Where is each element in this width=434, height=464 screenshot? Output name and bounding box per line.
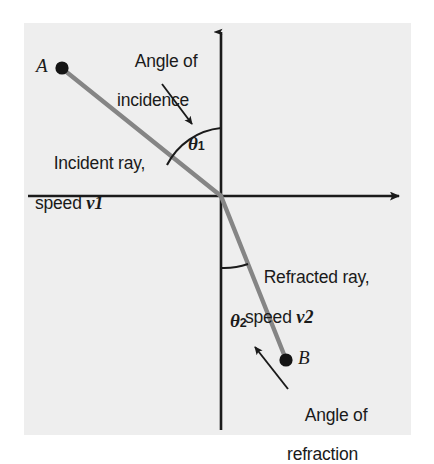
theta1-symbol: θ (188, 133, 198, 154)
point-a-label: A (36, 55, 47, 76)
theta2-symbol: θ (230, 310, 240, 331)
theta2-arc (221, 264, 248, 268)
incident-ray-line1: Incident ray, (54, 153, 145, 173)
angle-of-incidence-label: Angle of incidence (117, 32, 197, 150)
refracted-ray-speed-text: speed (245, 307, 296, 327)
theta2-label: θ2 (230, 310, 246, 331)
theta1-label: θ1 (188, 133, 204, 154)
angle-of-refraction-line2: refraction (287, 445, 367, 464)
refracted-ray-line1: Refracted ray, (264, 267, 370, 287)
incident-ray-label: Incident ray, speed v1 (35, 134, 145, 253)
theta1-subscript: 1 (198, 139, 205, 153)
refracted-ray-label: Refracted ray, speed v2 (245, 248, 369, 367)
angle-of-incidence-line2: incidence (117, 91, 197, 111)
refracted-ray-speed-subscript: 2 (304, 307, 313, 327)
angle-of-refraction-line1: Angle of (305, 405, 368, 425)
refracted-ray-line2: speed v2 (245, 307, 369, 328)
point-a-dot (55, 61, 68, 74)
incident-ray-speed-subscript: 1 (94, 193, 103, 213)
incident-ray-line2: speed v1 (35, 193, 145, 214)
incident-ray-speed-text: speed (35, 193, 86, 213)
theta2-subscript: 2 (240, 316, 247, 330)
angle-of-refraction-label: Angle of refraction (287, 386, 367, 464)
angle-of-incidence-line1: Angle of (135, 51, 198, 71)
